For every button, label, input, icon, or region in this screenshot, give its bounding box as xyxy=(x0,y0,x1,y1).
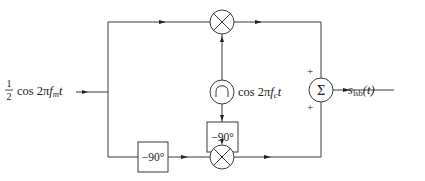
input-time-var: t xyxy=(59,84,63,98)
top-product-arrow-icon xyxy=(255,20,262,24)
multiplier-top xyxy=(210,10,234,34)
summer-bottom-sign: + xyxy=(307,101,313,113)
summer: Σ xyxy=(309,78,333,102)
bottom-product-arrow-icon xyxy=(264,155,271,159)
output-signal-sub: lsb xyxy=(353,88,363,98)
input-arrow-icon xyxy=(82,90,88,94)
output-signal-arg: (t) xyxy=(363,83,375,97)
multiplier-bottom xyxy=(210,145,234,169)
summer-top-sign: + xyxy=(307,65,313,77)
shifted-message-arrow-icon xyxy=(181,155,188,159)
top-branch-arrow-icon xyxy=(159,20,166,24)
output-label: slsb(t) xyxy=(348,83,375,98)
oscillator-down-arrow-icon xyxy=(220,115,224,121)
input-label-text: cos 2πfmt xyxy=(17,84,63,99)
oscillator-circle xyxy=(210,80,234,104)
ssb-modulator-diagram: 1 2 cos 2πfmt cos 2πfct −90° −90° xyxy=(0,0,425,181)
input-fraction-numerator: 1 xyxy=(7,78,12,89)
carrier-oscillator xyxy=(210,80,234,104)
sigma-icon: Σ xyxy=(317,84,325,98)
oscillator-cos-term: cos 2π xyxy=(238,85,271,99)
oscillator-up-arrow-icon xyxy=(220,36,224,42)
message-phase-shifter: −90° xyxy=(138,142,168,172)
oscillator-time-var: t xyxy=(278,85,282,99)
message-phase-shifter-label: −90° xyxy=(142,151,165,163)
input-fraction-denominator: 2 xyxy=(7,91,12,102)
oscillator-label: cos 2πfct xyxy=(238,85,282,100)
input-cos-term: cos 2π xyxy=(17,84,50,98)
input-signal-label: 1 2 cos 2πfmt xyxy=(5,78,63,102)
